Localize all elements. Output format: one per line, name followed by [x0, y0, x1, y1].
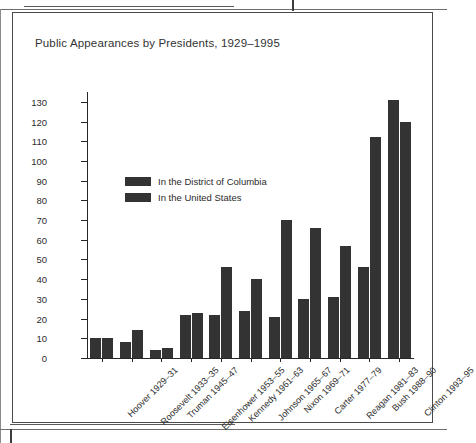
bar	[162, 348, 173, 358]
bar	[239, 311, 250, 358]
x-axis-tick-mark	[310, 358, 311, 362]
page-rule-top-inner	[0, 9, 447, 10]
bar	[180, 315, 191, 358]
bar	[209, 315, 220, 358]
x-axis-tick-mark	[280, 358, 281, 362]
x-axis-tick-mark	[221, 358, 222, 362]
bar-group	[120, 92, 143, 358]
x-axis-tick-mark	[102, 358, 103, 362]
bar-group	[388, 92, 411, 358]
y-axis-tick-label: 120	[17, 116, 47, 127]
bar-group	[209, 92, 232, 358]
bar-group	[150, 92, 173, 358]
y-axis-tick-label: 110	[17, 136, 47, 147]
bar	[90, 338, 101, 358]
legend-label: In the United States	[158, 192, 241, 203]
legend-swatch	[125, 193, 151, 202]
y-axis-tick-label: 80	[17, 195, 47, 206]
y-axis-tick-label: 50	[17, 254, 47, 265]
y-axis-tick-label: 40	[17, 274, 47, 285]
bar	[370, 137, 381, 358]
bar-group	[328, 92, 351, 358]
y-axis-tick-label: 10	[17, 333, 47, 344]
bar-group	[358, 92, 381, 358]
bar	[150, 350, 161, 358]
x-axis-tick-mark	[132, 358, 133, 362]
bar-group	[298, 92, 321, 358]
bar-group	[269, 92, 292, 358]
bar-series-layer	[87, 92, 414, 358]
y-axis-tick-label: 100	[17, 155, 47, 166]
y-axis-tick-label: 30	[17, 293, 47, 304]
bar	[358, 267, 369, 358]
legend-item: In the District of Columbia	[125, 174, 267, 188]
bar	[221, 267, 232, 358]
y-axis-tick-label: 60	[17, 234, 47, 245]
x-axis-tick-mark	[251, 358, 252, 362]
bar	[400, 122, 411, 358]
bar-group	[90, 92, 113, 358]
x-axis-tick-mark	[369, 358, 370, 362]
bar	[328, 297, 339, 358]
legend-swatch	[125, 177, 151, 186]
y-axis-tick-label: 70	[17, 215, 47, 226]
page-edge-left	[0, 9, 1, 443]
y-axis-tick-mark	[81, 358, 87, 359]
bar	[281, 220, 292, 358]
figure-title: Public Appearances by Presidents, 1929–1…	[35, 37, 280, 49]
bar	[388, 100, 399, 358]
bar	[192, 313, 203, 358]
x-axis-tick-mark	[399, 358, 400, 362]
crop-mark-bottom-icon	[10, 429, 12, 443]
bar	[298, 299, 309, 358]
crop-mark-top-icon	[292, 0, 294, 11]
figure-frame: Public Appearances by Presidents, 1929–1…	[12, 12, 433, 423]
bar	[102, 338, 113, 358]
bar	[251, 279, 262, 358]
bar	[269, 317, 280, 358]
x-axis-tick-mark	[191, 358, 192, 362]
x-axis-tick-mark	[161, 358, 162, 362]
y-axis-tick-label: 90	[17, 175, 47, 186]
page-rule-top	[24, 6, 234, 7]
legend-item: In the United States	[125, 190, 267, 204]
y-axis-tick-label: 20	[17, 313, 47, 324]
bar-group	[239, 92, 262, 358]
chart-legend: In the District of ColumbiaIn the United…	[125, 174, 267, 206]
y-axis-tick-label: 0	[17, 353, 47, 364]
bar	[120, 342, 131, 358]
bar	[340, 246, 351, 358]
legend-label: In the District of Columbia	[158, 176, 267, 187]
x-axis-tick-mark	[340, 358, 341, 362]
y-axis-tick-label: 130	[17, 96, 47, 107]
bar	[132, 330, 143, 358]
page-rule-bottom	[10, 424, 235, 425]
bar	[310, 228, 321, 358]
bar-group	[180, 92, 203, 358]
